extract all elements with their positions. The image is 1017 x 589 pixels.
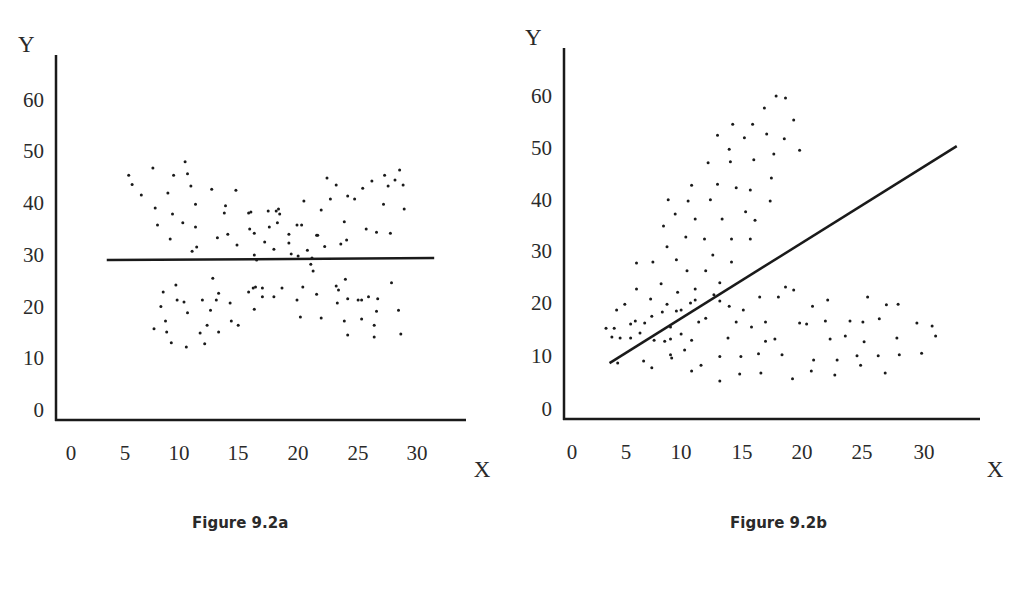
data-point — [651, 260, 654, 263]
data-point — [309, 263, 312, 266]
data-point — [170, 341, 173, 344]
data-point — [764, 340, 767, 343]
data-point — [249, 211, 252, 214]
data-point — [316, 234, 319, 237]
data-point — [320, 317, 323, 320]
data-point — [667, 198, 670, 201]
x-tick-label: 20 — [288, 441, 309, 465]
data-point — [661, 311, 664, 314]
x-tick-label: 10 — [169, 441, 190, 465]
data-point — [326, 176, 329, 179]
data-point — [376, 297, 379, 300]
data-point — [186, 172, 189, 175]
figure-caption-b: Figure 9.2b — [730, 514, 827, 532]
data-point — [731, 123, 734, 126]
data-point — [738, 373, 741, 376]
data-point — [666, 245, 669, 248]
data-point — [346, 195, 349, 198]
data-point — [686, 269, 689, 272]
data-point — [777, 295, 780, 298]
data-point — [156, 223, 159, 226]
data-point — [642, 360, 645, 363]
data-point — [127, 174, 130, 177]
y-axis-label: Y — [525, 25, 542, 50]
data-point — [357, 298, 360, 301]
data-point — [191, 250, 194, 253]
data-point — [164, 320, 167, 323]
data-point — [153, 327, 156, 330]
data-point — [287, 242, 290, 245]
data-point — [829, 338, 832, 341]
data-point — [750, 326, 753, 329]
data-point — [810, 370, 813, 373]
data-point — [194, 226, 197, 229]
data-point — [660, 282, 663, 285]
regression-line — [107, 258, 434, 260]
data-point — [721, 218, 724, 221]
data-point — [739, 355, 742, 358]
data-point — [336, 302, 339, 305]
data-point — [186, 311, 189, 314]
x-tick-label: 20 — [792, 440, 813, 464]
data-point — [203, 342, 206, 345]
figure-canvas: Y 0 10 20 30 40 50 60 0 5 10 15 20 25 30… — [0, 0, 1017, 589]
data-point — [297, 254, 300, 257]
data-point — [315, 293, 318, 296]
data-point — [783, 137, 786, 140]
data-point — [346, 334, 349, 337]
data-point — [811, 305, 814, 308]
data-point — [718, 300, 721, 303]
data-point — [694, 218, 697, 221]
data-point — [718, 379, 721, 382]
data-point — [730, 260, 733, 263]
data-point — [390, 281, 393, 284]
data-point — [744, 210, 747, 213]
y-tick-label: 40 — [23, 191, 44, 215]
data-point — [166, 191, 169, 194]
data-point — [237, 324, 240, 327]
data-point — [229, 302, 232, 305]
data-point — [248, 228, 251, 231]
data-point — [704, 269, 707, 272]
data-point — [728, 148, 731, 151]
data-point — [690, 339, 693, 342]
data-point — [254, 286, 257, 289]
data-point — [859, 364, 862, 367]
data-point — [653, 339, 656, 342]
data-point — [131, 183, 134, 186]
data-point — [184, 160, 187, 163]
y-tick-label: 50 — [531, 136, 552, 160]
data-point — [397, 309, 400, 312]
data-point — [885, 303, 888, 306]
data-point — [751, 123, 754, 126]
data-point — [281, 287, 284, 290]
data-point — [253, 308, 256, 311]
data-point — [675, 258, 678, 261]
data-point — [296, 223, 299, 226]
data-point — [375, 231, 378, 234]
data-point — [676, 291, 679, 294]
data-point — [770, 176, 773, 179]
data-point — [742, 308, 745, 311]
data-point — [261, 287, 264, 290]
y-axis-label: Y — [18, 32, 35, 57]
data-point — [162, 291, 165, 294]
data-point — [165, 330, 168, 333]
x-tick-label: 15 — [732, 440, 753, 464]
data-point — [261, 295, 264, 298]
data-point — [920, 352, 923, 355]
data-point — [296, 298, 299, 301]
x-tick-label: 25 — [348, 441, 369, 465]
data-point — [278, 213, 281, 216]
data-point — [610, 336, 613, 339]
data-point — [345, 238, 348, 241]
data-point — [798, 322, 801, 325]
data-point — [387, 185, 390, 188]
data-point — [615, 308, 618, 311]
data-point — [206, 324, 209, 327]
data-point — [367, 295, 370, 298]
data-point — [343, 220, 346, 223]
x-tick-label: 5 — [621, 440, 632, 464]
data-point — [195, 246, 198, 249]
x-tick-label: 5 — [120, 441, 131, 465]
